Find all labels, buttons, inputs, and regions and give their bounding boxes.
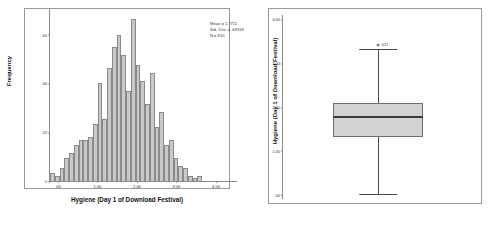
histogram-x-axis-line [49,181,237,182]
histogram-x-axis-title: Hygiene (Day 1 of Download Festival) [24,196,230,203]
histogram-stat-stddev: Std. Dev. = .69318 [210,27,244,33]
histogram-xtick-4: 4.00 [212,181,220,189]
boxplot-plot-area: 4.00 3.00 2.00 1.00 .00 611 [283,15,473,199]
boxplot-outlier-label: 611 [382,42,388,47]
histogram-xtick-3: 3.00 [173,181,181,189]
histogram-stat-n: N = 810 [210,33,244,39]
histogram-panel: 60 40 20 0 .00 1.00 2.00 3.00 4.00 Mean … [0,0,246,226]
histogram-xtick-0: .00 [55,181,61,189]
histogram-xtick-1: 1.00 [94,181,102,189]
boxplot-iqr-box [333,103,422,137]
histogram-bar [197,176,202,181]
boxplot-median-line [333,116,422,118]
histogram-plot-area: 60 40 20 0 .00 1.00 2.00 3.00 4.00 [50,14,216,181]
boxplot-y-axis-title: Hygiene (Day 1 of Download Festival) [272,6,278,176]
histogram-ytick-60: 60 [43,32,50,37]
histogram-plot-frame: 60 40 20 0 .00 1.00 2.00 3.00 4.00 Mean … [24,8,230,189]
boxplot-ytick-0: .00 [274,192,283,197]
spss-output-figure: 60 40 20 0 .00 1.00 2.00 3.00 4.00 Mean … [0,0,492,226]
histogram-y-axis-title: Frequency [6,31,12,111]
boxplot-panel: 4.00 3.00 2.00 1.00 .00 611 Hygien [246,0,492,226]
boxplot-upper-whisker-cap [359,49,397,50]
histogram-ytick-20: 20 [43,130,50,135]
boxplot-upper-whisker [378,49,379,103]
histogram-ytick-40: 40 [43,81,50,86]
boxplot-lower-whisker [378,137,379,194]
histogram-bars [50,14,216,181]
boxplot-plot-frame: 4.00 3.00 2.00 1.00 .00 611 [268,8,482,204]
boxplot-outlier-marker [377,44,380,47]
histogram-stats-annotation: Mean = 1.7711 Std. Dev. = .69318 N = 810 [210,21,244,39]
histogram-xtick-2: 2.00 [133,181,141,189]
boxplot-lower-whisker-cap [359,194,397,195]
